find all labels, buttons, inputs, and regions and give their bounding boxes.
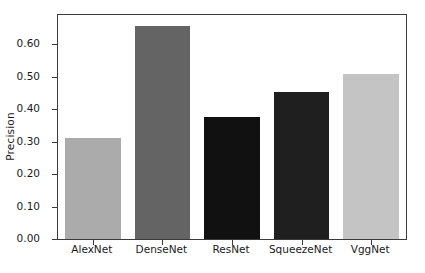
y-axis-tick-label: 0.50: [17, 70, 40, 82]
x-axis-tick-label-vggnet: VggNet: [351, 243, 390, 255]
plot-area: [58, 15, 406, 239]
bar-densenet: [135, 26, 191, 239]
y-axis-tick-label: 0.30: [17, 135, 40, 147]
x-axis-tick-label-squeezenet: SqueezeNet: [269, 243, 332, 255]
y-axis-tick-labels: 0.000.100.200.300.400.500.60: [0, 14, 50, 240]
y-axis-tick-label: 0.40: [17, 102, 40, 114]
y-axis-tick: [52, 174, 58, 175]
x-axis-tick-label-resnet: ResNet: [212, 243, 249, 255]
y-axis-tick: [52, 44, 58, 45]
y-axis-tick-label: 0.20: [17, 167, 40, 179]
y-axis-tick-label: 0.00: [17, 232, 40, 244]
bar-chart-figure: Precision 0.000.100.200.300.400.500.60 A…: [0, 0, 425, 273]
bar-alexnet: [65, 138, 121, 239]
x-axis-tick-labels: AlexNetDenseNetResNetSqueezeNetVggNet: [57, 243, 407, 263]
y-axis-tick-label: 0.60: [17, 37, 40, 49]
y-axis-tick: [52, 142, 58, 143]
plot-frame: [57, 14, 407, 240]
y-axis-tick: [52, 239, 58, 240]
x-axis-tick-label-alexnet: AlexNet: [71, 243, 112, 255]
bar-resnet: [204, 117, 260, 239]
bar-vggnet: [343, 74, 399, 239]
y-axis-tick: [52, 207, 58, 208]
y-axis-tick-label: 0.10: [17, 200, 40, 212]
y-axis-tick: [52, 77, 58, 78]
x-axis-tick-label-densenet: DenseNet: [136, 243, 188, 255]
y-axis-tick: [52, 109, 58, 110]
bar-squeezenet: [274, 92, 330, 239]
